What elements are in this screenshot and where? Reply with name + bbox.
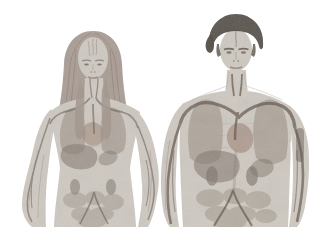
anatomy-illustration [0, 0, 323, 242]
anatomy-svg [0, 0, 323, 242]
